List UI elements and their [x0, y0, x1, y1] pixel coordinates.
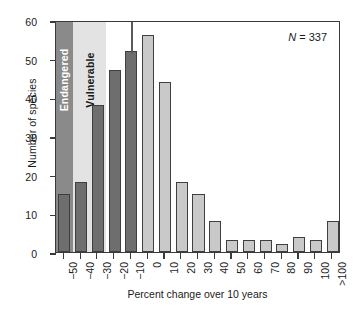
x-tick-label: 10	[168, 262, 180, 274]
bar	[209, 221, 221, 252]
y-axis-title: Number of species	[26, 13, 38, 233]
x-tick-label: >100	[336, 262, 348, 286]
histogram-figure: Number of species EndangeredVulnerable 0…	[0, 0, 354, 312]
y-tick	[50, 137, 56, 138]
bar	[226, 240, 238, 252]
x-tick-label: −10	[134, 262, 146, 280]
threshold-line-icon	[131, 22, 132, 53]
bar	[310, 240, 322, 252]
y-tick	[50, 21, 56, 22]
y-tick	[50, 60, 56, 61]
bar	[159, 82, 171, 252]
x-tick	[314, 253, 315, 259]
bar	[58, 194, 70, 252]
bar	[92, 105, 104, 252]
x-tick-label: 20	[185, 262, 197, 274]
x-tick	[113, 253, 114, 259]
x-tick-label: 0	[151, 262, 163, 268]
x-tick-label: −40	[84, 262, 96, 280]
x-tick	[214, 253, 215, 259]
sample-size-symbol: N	[288, 31, 296, 43]
x-tick-label: 80	[285, 262, 297, 274]
x-tick	[197, 253, 198, 259]
bar	[176, 182, 188, 252]
x-tick-label: −20	[118, 262, 130, 280]
y-tick-label: 60	[0, 16, 37, 28]
y-tick-label: 10	[0, 209, 37, 221]
bar	[260, 240, 272, 252]
x-tick	[63, 253, 64, 259]
x-tick-label: 90	[302, 262, 314, 274]
sample-size-annotation: N = 337	[288, 31, 327, 43]
x-tick	[80, 253, 81, 259]
x-tick	[130, 253, 131, 259]
x-tick-label: 70	[269, 262, 281, 274]
y-tick-label: 40	[0, 93, 37, 105]
y-tick	[50, 215, 56, 216]
x-tick	[247, 253, 248, 259]
bar	[327, 221, 339, 252]
bar	[109, 70, 121, 252]
bar	[192, 194, 204, 252]
y-tick-label: 30	[0, 132, 37, 144]
x-tick-label: −30	[101, 262, 113, 280]
bar	[243, 240, 255, 252]
sample-size-value: = 337	[296, 31, 327, 43]
x-tick	[96, 253, 97, 259]
plot-area: EndangeredVulnerable 0102030405060 N = 3…	[55, 21, 340, 253]
y-tick-label: 0	[0, 248, 37, 260]
x-tick	[264, 253, 265, 259]
bar	[276, 244, 288, 252]
bar	[142, 35, 154, 252]
x-tick	[147, 253, 148, 259]
x-tick-label: 30	[202, 262, 214, 274]
y-tick	[50, 99, 56, 100]
x-axis-title: Percent change over 10 years	[55, 288, 340, 300]
x-tick	[180, 253, 181, 259]
y-tick-label: 20	[0, 171, 37, 183]
x-tick-label: 60	[252, 262, 264, 274]
y-tick	[50, 176, 56, 177]
x-tick-label: 100	[319, 262, 331, 280]
bar	[75, 182, 87, 252]
bar	[125, 51, 137, 252]
x-tick	[163, 253, 164, 259]
x-tick	[297, 253, 298, 259]
bar-series	[56, 22, 339, 252]
x-tick-label: 40	[218, 262, 230, 274]
x-tick-label: −50	[67, 262, 79, 280]
x-tick	[281, 253, 282, 259]
bar	[293, 237, 305, 252]
x-tick	[331, 253, 332, 259]
x-tick-label: 50	[235, 262, 247, 274]
x-tick	[230, 253, 231, 259]
y-tick-label: 50	[0, 55, 37, 67]
